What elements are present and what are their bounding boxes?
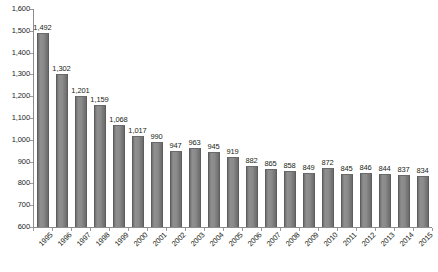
bar [113,125,125,227]
bar [341,174,353,227]
y-axis-tick-label: 1,600 [0,5,30,13]
bar-value-label: 1,201 [65,87,97,95]
y-axis-tick-label: 1,400 [0,49,30,57]
y-axis-tick-mark [30,205,33,206]
x-axis-tick-mark [223,228,224,231]
y-axis-tick-label: 1,300 [0,70,30,78]
bar [151,142,163,227]
bar-value-label: 990 [141,133,173,141]
bar [417,176,429,227]
y-axis-tick-mark [30,53,33,54]
x-axis-tick-mark [128,228,129,231]
x-axis-tick-mark [204,228,205,231]
bar [398,175,410,227]
bar-value-label: 1,302 [46,65,78,73]
x-axis-tick-mark [280,228,281,231]
bar-value-label: 919 [217,148,249,156]
y-axis-tick-label: 900 [0,158,30,166]
x-axis-tick-mark [413,228,414,231]
bar-value-label: 834 [407,167,438,175]
y-axis-tick-mark [30,162,33,163]
bar [303,173,315,227]
x-axis-tick-mark [90,228,91,231]
x-axis-tick-mark [185,228,186,231]
x-axis-tick-mark [109,228,110,231]
y-axis-tick-mark [30,183,33,184]
bar [56,74,68,227]
y-axis-tick-labels: 1,6001,5001,4001,3001,2001,1001,00090080… [0,0,30,240]
y-axis-tick-label: 700 [0,201,30,209]
y-axis-tick-label: 1,100 [0,114,30,122]
y-axis-tick-mark [30,31,33,32]
bar [322,168,334,227]
y-axis-tick-label: 1,500 [0,27,30,35]
y-axis-tick-mark [30,96,33,97]
bar [170,151,182,227]
y-axis-tick-label: 1,200 [0,92,30,100]
bar [189,148,201,227]
x-axis-tick-mark [52,228,53,231]
plot-area: 1,4921,3021,2011,1591,0681,0179909479639… [33,9,432,227]
x-axis-tick-mark [356,228,357,231]
bar [360,173,372,227]
x-axis-tick-mark [432,228,433,231]
x-axis-tick-mark [375,228,376,231]
x-axis-category-labels: 1995199619971998199920002001200220032004… [33,231,432,263]
bar-value-label: 1,068 [103,116,135,124]
y-axis-tick-label: 1,000 [0,136,30,144]
bar-chart: 1,6001,5001,4001,3001,2001,1001,00090080… [0,0,438,272]
bar [75,96,87,227]
y-axis-tick-mark [30,118,33,119]
bottom-caption [4,265,434,272]
bar [37,33,49,227]
x-axis-tick-mark [299,228,300,231]
x-axis-tick-mark [71,228,72,231]
x-axis-tick-mark [166,228,167,231]
bar [208,152,220,227]
bar [132,136,144,227]
bar [265,169,277,227]
x-axis-tick-mark [318,228,319,231]
y-axis-tick-mark [30,74,33,75]
y-axis-tick-label: 600 [0,223,30,231]
x-axis-tick-mark [337,228,338,231]
x-axis-tick-mark [394,228,395,231]
bar-value-label: 1,159 [84,96,116,104]
y-axis-tick-mark [30,140,33,141]
bar [284,171,296,227]
x-axis-tick-mark [242,228,243,231]
x-axis-tick-mark [33,228,34,231]
y-axis-tick-mark [30,9,33,10]
x-axis-tick-mark [261,228,262,231]
bar [227,157,239,227]
x-axis-tick-mark [147,228,148,231]
bar [379,174,391,227]
bar [246,166,258,227]
x-axis-line [33,227,432,228]
y-axis-tick-label: 800 [0,179,30,187]
